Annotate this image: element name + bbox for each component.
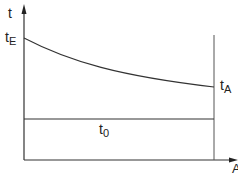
tE-label: tE [5, 29, 16, 47]
y-axis-arrow-icon [22, 4, 27, 14]
t0-label: t0 [99, 121, 109, 139]
tA-label: tA [220, 77, 232, 95]
x-axis-label: A [232, 161, 238, 173]
temperature-diagram: t tE tA t0 A [0, 0, 238, 173]
y-axis-label: t [8, 5, 12, 21]
decay-curve [24, 38, 214, 87]
